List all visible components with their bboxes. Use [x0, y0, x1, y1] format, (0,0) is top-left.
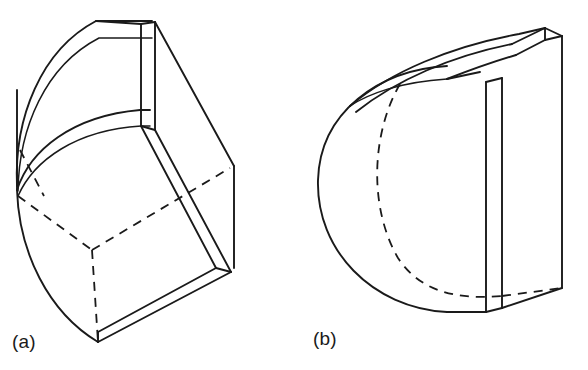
figure-b-group — [318, 28, 562, 318]
figure-sheet: (a) (b) — [0, 0, 588, 370]
figure-b-caption: (b) — [313, 328, 337, 350]
figure-b-body-fill — [318, 28, 562, 318]
technical-drawing-canvas — [0, 0, 588, 370]
figure-a-caption: (a) — [12, 331, 36, 353]
figure-a-group — [17, 21, 234, 342]
